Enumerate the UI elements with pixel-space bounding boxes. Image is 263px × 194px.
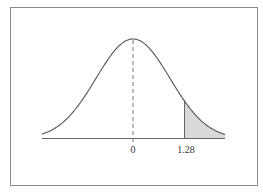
normal-curve-graphic bbox=[0, 0, 263, 194]
tick-label-mean: 0 bbox=[131, 145, 136, 155]
figure-frame bbox=[11, 8, 258, 186]
normal-distribution-figure: 0 1.28 bbox=[0, 0, 263, 194]
tick-label-cutoff: 1.28 bbox=[177, 145, 195, 155]
